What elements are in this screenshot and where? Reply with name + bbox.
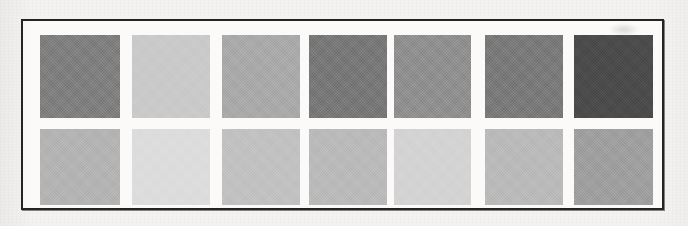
- swatch-bottom-6: [485, 129, 563, 205]
- swatch-bottom-5: [394, 129, 471, 205]
- swatch-bottom-3: [222, 129, 300, 205]
- swatch-row-top: [23, 35, 662, 118]
- swatch-top-1: [40, 35, 120, 118]
- swatch-panel-frame: [21, 19, 664, 210]
- swatch-top-6: [485, 35, 563, 118]
- swatch-bottom-4: [309, 129, 387, 205]
- swatch-bottom-1: [40, 129, 120, 205]
- swatch-top-3: [222, 35, 300, 118]
- swatch-top-7: [574, 35, 653, 118]
- swatch-top-2: [132, 35, 210, 118]
- scanned-page: [0, 0, 688, 226]
- swatch-top-4: [309, 35, 387, 118]
- swatch-bottom-7: [574, 129, 653, 205]
- swatch-bottom-2: [132, 129, 210, 205]
- swatch-row-bottom: [23, 129, 662, 205]
- swatch-top-5: [394, 35, 471, 118]
- swatch-area: [23, 21, 662, 208]
